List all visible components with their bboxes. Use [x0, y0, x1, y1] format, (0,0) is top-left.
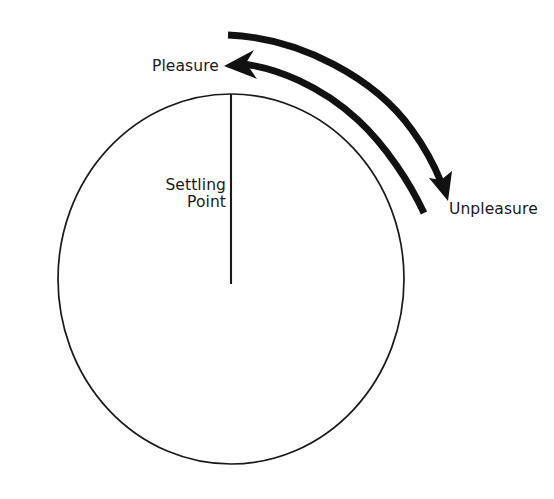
diagram-svg: [0, 0, 554, 499]
label-settling-point: SettlingPoint: [148, 177, 226, 211]
pleasure-arc-stroke: [243, 64, 424, 213]
unpleasure-arc-stroke: [228, 35, 441, 182]
label-settling-point-line1: Settling: [165, 176, 226, 194]
arrow-toward-unpleasure: [228, 35, 452, 201]
label-settling-point-line2: Point: [187, 193, 226, 211]
arrow-toward-pleasure: [224, 50, 424, 213]
label-unpleasure: Unpleasure: [449, 201, 538, 218]
label-pleasure: Pleasure: [152, 58, 219, 75]
diagram-canvas: Pleasure Unpleasure SettlingPoint: [0, 0, 554, 499]
